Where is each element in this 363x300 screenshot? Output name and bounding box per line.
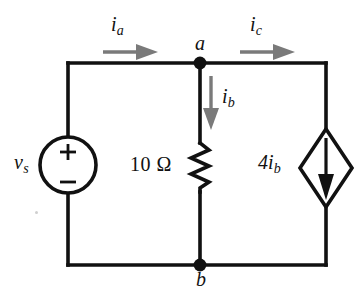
current-ic-arrow <box>240 44 295 60</box>
dependent-source-symbol <box>300 129 352 207</box>
current-ia-arrow <box>103 44 158 60</box>
node-a-label: a <box>195 33 205 53</box>
circuit-schematic-canvas <box>0 0 363 300</box>
current-ib-arrow-head <box>203 108 219 130</box>
current-ib-label: ib <box>222 86 235 106</box>
scan-artifact-speck <box>35 211 38 214</box>
current-ib-arrow <box>203 76 219 130</box>
resistor-symbol <box>191 143 209 192</box>
voltage-source-symbol <box>40 137 96 193</box>
circuit-wires <box>68 63 326 265</box>
resistor-zigzag <box>191 143 209 192</box>
voltage-source-label: vs <box>14 152 28 172</box>
current-ia-label: ia <box>111 14 124 34</box>
current-ic-arrow-head <box>273 44 295 60</box>
node-b-label: b <box>196 269 206 289</box>
resistor-label: 10 Ω <box>130 154 172 174</box>
current-ic-label: ic <box>250 14 262 34</box>
dependent-source-label: 4ib <box>258 152 281 172</box>
node-a-dot <box>194 57 207 70</box>
current-ia-arrow-head <box>136 44 158 60</box>
circuit-diagram: ia ic ib a b vs 10 Ω 4ib <box>0 0 363 300</box>
